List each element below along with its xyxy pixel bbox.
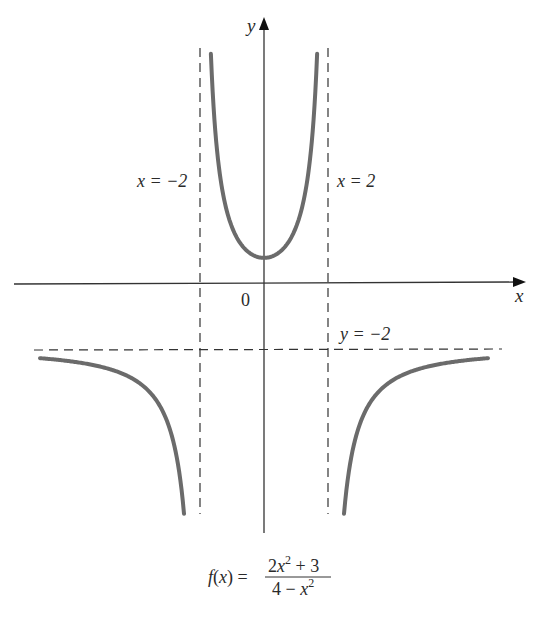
curve-left-branch xyxy=(40,358,184,514)
y-axis-label: y xyxy=(245,15,256,36)
asymptote-y-neg2 xyxy=(34,349,502,350)
origin-label: 0 xyxy=(241,290,250,310)
asymptote-left-label: x = −2 xyxy=(136,171,187,191)
formula-numerator: 2x2 + 3 xyxy=(268,553,319,576)
curve-right-branch xyxy=(344,358,488,514)
formula-denominator: 4 − x2 xyxy=(272,576,314,599)
function-graph: y x 0 x = −2 x = 2 y = −2 f(x) = 2x2 + 3… xyxy=(0,0,543,624)
x-axis-label: x xyxy=(514,285,524,306)
y-axis-arrow-icon xyxy=(259,17,269,30)
asymptote-horizontal-label: y = −2 xyxy=(338,324,390,344)
formula-lhs: f(x) = xyxy=(208,567,248,588)
function-formula: f(x) = 2x2 + 3 4 − x2 xyxy=(208,553,331,599)
asymptote-right-label: x = 2 xyxy=(336,171,375,191)
